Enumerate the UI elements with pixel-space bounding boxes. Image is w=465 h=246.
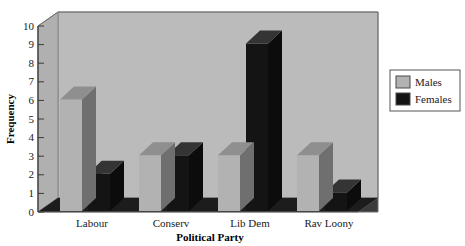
x-axis-title: Political Party bbox=[176, 231, 244, 243]
y-tick-label: 8 bbox=[29, 57, 35, 69]
bar-conserv-males bbox=[139, 142, 175, 211]
bar-libdem-males bbox=[218, 142, 254, 211]
legend: Males Females bbox=[390, 70, 460, 111]
x-tick-label-libdem: Lib Dem bbox=[230, 217, 270, 229]
y-tick-label: 0 bbox=[29, 206, 35, 218]
y-tick-label: 1 bbox=[29, 187, 35, 199]
y-axis-title: Frequency bbox=[4, 94, 16, 144]
y-tick-label: 4 bbox=[29, 131, 35, 143]
bar-ravloony-males bbox=[297, 142, 333, 211]
x-axis: Labour Conserv Lib Dem Rav Loony Politic… bbox=[76, 217, 354, 243]
legend-entry-females[interactable]: Females bbox=[396, 93, 452, 105]
legend-entry-males[interactable]: Males bbox=[396, 76, 442, 88]
legend-swatch-females bbox=[396, 93, 410, 105]
bar-chart-figure: 0 1 2 3 4 5 6 7 8 9 bbox=[0, 0, 465, 246]
y-tick-label: 9 bbox=[29, 38, 35, 50]
y-tick-label: 7 bbox=[29, 75, 35, 87]
y-tick-label: 3 bbox=[29, 150, 35, 162]
y-tick-label: 10 bbox=[23, 20, 35, 32]
bar-labour-males bbox=[60, 86, 96, 211]
y-tick-label: 6 bbox=[29, 94, 35, 106]
x-tick-label-conserv: Conserv bbox=[153, 217, 190, 229]
legend-label-males: Males bbox=[415, 76, 442, 88]
chart-svg: 0 1 2 3 4 5 6 7 8 9 bbox=[0, 0, 465, 246]
legend-label-females: Females bbox=[415, 93, 452, 105]
y-tick-label: 2 bbox=[29, 168, 35, 180]
y-axis: 0 1 2 3 4 5 6 7 8 9 bbox=[4, 20, 44, 218]
plot-left-wall bbox=[38, 12, 58, 212]
y-tick-label: 5 bbox=[29, 113, 35, 125]
legend-swatch-males bbox=[396, 76, 410, 88]
bar-group-conserv bbox=[139, 142, 203, 211]
x-tick-label-ravloony: Rav Loony bbox=[304, 217, 354, 229]
x-tick-label-labour: Labour bbox=[76, 217, 108, 229]
